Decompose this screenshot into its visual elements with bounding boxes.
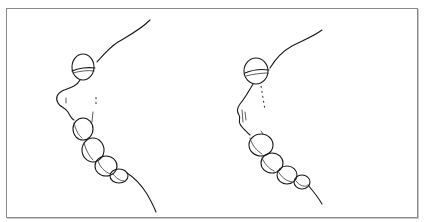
right-profile-drawing (238, 30, 322, 204)
left-profile-drawing (57, 20, 156, 212)
profile-drawings (0, 0, 424, 222)
